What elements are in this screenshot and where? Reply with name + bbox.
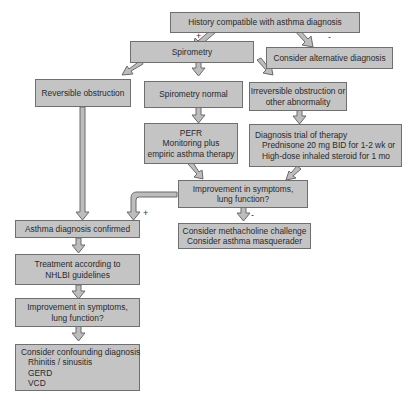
- node-treatment: Treatment according to NHLBI guidelines: [15, 254, 140, 285]
- node-alternative-text: Consider alternative diagnosis: [273, 53, 385, 64]
- node-irreversible: Irreversible obstruction or other abnorm…: [249, 82, 347, 111]
- node-history-text: History compatible with asthma diagnosis: [188, 17, 342, 28]
- node-confounding-line1: Rhinitis / sinusitis: [21, 357, 92, 368]
- node-improvement-2-line1: Improvement in symptoms,: [27, 302, 128, 313]
- node-pefr-line2: Monitoring plus: [163, 138, 220, 149]
- node-spirometry: Spirometry: [130, 41, 254, 63]
- label-history-minus: -: [328, 32, 331, 42]
- node-treatment-line2: NHLBI guidelines: [45, 270, 110, 281]
- node-pefr-line1: PEFR: [180, 128, 202, 139]
- node-improvement-1-line2: lung function?: [217, 194, 269, 205]
- node-trial-therapy: Diagnosis trial of therapy Prednisone 20…: [249, 124, 402, 167]
- node-improvement-2: Improvement in symptoms, lung function?: [15, 298, 140, 327]
- node-irreversible-line2: other abnormality: [266, 97, 331, 108]
- node-spirometry-normal-text: Spirometry normal: [159, 89, 227, 100]
- node-treatment-line1: Treatment according to: [35, 259, 121, 270]
- node-reversible: Reversible obstruction: [35, 79, 131, 107]
- node-history: History compatible with asthma diagnosis: [170, 12, 360, 33]
- node-asthma-confirmed: Asthma diagnosis confirmed: [15, 220, 140, 238]
- label-history-plus: +: [196, 31, 201, 41]
- node-methacholine-line2: Consider asthma masquerader: [187, 236, 302, 247]
- node-confounding-line2: GERD: [21, 368, 52, 379]
- node-asthma-confirmed-text: Asthma diagnosis confirmed: [25, 224, 130, 235]
- node-methacholine-line1: Consider methacholine challenge: [183, 226, 307, 237]
- node-pefr-line3: empiric asthma therapy: [147, 149, 234, 160]
- node-trial-title: Diagnosis trial of therapy: [255, 130, 347, 141]
- node-methacholine: Consider methacholine challenge Consider…: [178, 223, 311, 249]
- node-confounding-title: Consider confounding diagnosis: [21, 347, 140, 358]
- node-improvement-1-line1: Improvement in symptoms,: [193, 184, 294, 195]
- node-irreversible-line1: Irreversible obstruction or: [251, 86, 346, 97]
- node-spirometry-text: Spirometry: [172, 47, 213, 58]
- node-confounding-line3: VCD: [21, 378, 46, 389]
- node-spirometry-normal: Spirometry normal: [144, 81, 243, 108]
- node-trial-line2: High-dose inhaled steroid for 1 mo: [255, 151, 390, 162]
- node-improvement-2-line2: lung function?: [51, 313, 103, 324]
- node-improvement-1: Improvement in symptoms, lung function?: [178, 180, 308, 208]
- node-alternative: Consider alternative diagnosis: [266, 47, 393, 69]
- node-trial-line1: Prednisone 20 mg BID for 1-2 wk or: [255, 140, 395, 151]
- node-confounding: Consider confounding diagnosis Rhinitis …: [15, 344, 140, 391]
- label-improve1-plus: +: [143, 208, 148, 218]
- node-reversible-text: Reversible obstruction: [42, 88, 125, 99]
- label-improve1-minus: -: [251, 210, 254, 220]
- node-pefr: PEFR Monitoring plus empiric asthma ther…: [144, 123, 238, 164]
